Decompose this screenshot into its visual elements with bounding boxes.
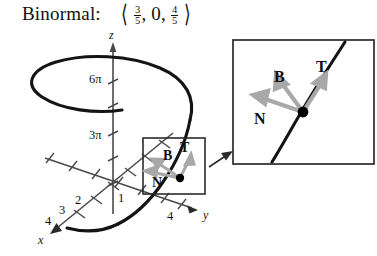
tangent-vector-label-inset: T — [316, 58, 327, 76]
z-tick-label-3pi: 3π — [89, 128, 102, 143]
point-of-tangency-inset — [298, 107, 309, 118]
normal-vector-label-inset: N — [254, 110, 266, 128]
x-tick-label-1: 1 — [118, 191, 124, 206]
y-axis-label: y — [203, 208, 208, 223]
binormal-vector-label-inset: B — [274, 68, 285, 86]
inset-connector-arrow — [209, 151, 233, 167]
tangent-vector-label-main: T — [180, 140, 189, 156]
diagram-canvas — [0, 0, 377, 256]
x-tick-label-2: 2 — [75, 193, 81, 208]
y-tick-label-4: 4 — [167, 209, 173, 224]
x-axis-label: x — [38, 233, 43, 248]
inset-frame — [233, 40, 374, 164]
z-tick-label-6pi: 6π — [89, 72, 102, 87]
binormal-vector-label-main: B — [163, 148, 172, 164]
x-tick-label-4: 4 — [45, 214, 51, 229]
z-axis-label: z — [109, 28, 114, 43]
point-of-tangency-main — [176, 174, 184, 182]
x-tick-label-3: 3 — [59, 203, 65, 218]
normal-vector-label-main: N — [152, 175, 162, 191]
figure-root: Binormal: ⟨ 3 5 , 0, 4 5 ⟩ — [0, 0, 377, 256]
